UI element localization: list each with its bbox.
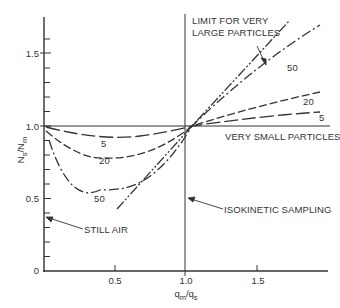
chart-svg: 1.5 1.0 0.5 0 0.5 1.0 1.5 Ns/Nm qm/qs LI…	[0, 0, 340, 308]
label-limit-line1: LIMIT FOR VERY	[192, 15, 269, 26]
x-tick-label-05: 0.5	[108, 275, 121, 286]
chart-container: 1.5 1.0 0.5 0 0.5 1.0 1.5 Ns/Nm qm/qs LI…	[0, 0, 340, 308]
still-air-arrow	[49, 218, 83, 229]
x-ticks	[115, 265, 257, 271]
x-tick-label-15: 1.5	[251, 275, 264, 286]
label-20-right: 20	[303, 96, 314, 107]
y-tick-label-05: 0.5	[26, 193, 39, 204]
x-axis-title: qm/qs	[174, 288, 197, 302]
svg-text:qm/qs: qm/qs	[174, 288, 197, 302]
label-still-air: STILL AIR	[84, 224, 128, 235]
curve-large-particles-limit	[117, 20, 290, 209]
label-5-left: 5	[101, 138, 106, 149]
y-tick-label-0: 0	[34, 265, 39, 276]
label-20-left: 20	[99, 155, 110, 166]
label-50-right: 50	[287, 62, 298, 73]
svg-text:Ns/Nm: Ns/Nm	[15, 137, 29, 163]
y-ticks	[40, 39, 51, 257]
curve-20	[46, 92, 320, 158]
label-limit-line2: LARGE PARTICLES	[192, 27, 280, 38]
y-axis-title: Ns/Nm	[15, 137, 29, 163]
label-very-small-particles: VERY SMALL PARTICLES	[225, 131, 340, 142]
x-tick-label-10: 1.0	[179, 275, 192, 286]
label-50-left: 50	[94, 193, 105, 204]
isokinetic-arrow	[191, 199, 223, 209]
y-tick-label-15: 1.5	[26, 48, 39, 59]
label-isokinetic-sampling: ISOKINETIC SAMPLING	[224, 204, 331, 215]
label-5-right: 5	[319, 112, 324, 123]
y-tick-label-10: 1.0	[26, 121, 39, 132]
axes	[43, 14, 330, 276]
